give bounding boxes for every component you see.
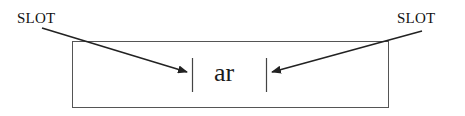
center-text: ar	[214, 60, 234, 86]
right-slot-label: SLOT	[397, 11, 435, 26]
slot-diagram: SLOT SLOT ar	[0, 0, 465, 116]
right-arrow	[272, 31, 422, 72]
left-arrow	[42, 28, 187, 72]
left-slot-label: SLOT	[17, 11, 55, 26]
